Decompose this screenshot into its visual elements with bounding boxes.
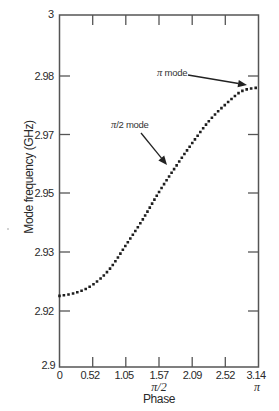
annotation-pi-half-mode: π/2 mode (111, 119, 167, 165)
x-tick-label: 2.09 (183, 369, 202, 381)
y-tick-label: 2.95 (34, 187, 53, 199)
mode-frequency-curve (60, 88, 259, 296)
annotation-label: π mode (157, 67, 187, 78)
annotation-label: π/2 mode (111, 119, 149, 130)
x-tick-label: 0 (57, 369, 63, 381)
y-tick-labels: 3 2.98 2.97 2.95 2.93 2.92 2.9 (34, 8, 55, 371)
y-axis-ticks (60, 76, 259, 311)
mode-frequency-chart: 3 2.98 2.97 2.95 2.93 2.92 2.9 0 0.52 1.… (0, 0, 279, 411)
stray-dot (7, 228, 9, 230)
annotation-pi-mode: π mode (157, 67, 247, 87)
annotation-suffix: /2 mode (116, 119, 148, 130)
x-tick-labels: 0 0.52 1.05 1.57 2.09 2.52 3.14 π/2 π (57, 369, 266, 394)
y-tick-label: 2.92 (34, 305, 53, 317)
arrow-line (188, 75, 239, 84)
y-tick-label: 2.9 (42, 359, 56, 371)
arrow-head-icon (158, 156, 167, 165)
arrow-line (141, 133, 162, 158)
annotation-suffix: mode (162, 67, 187, 78)
x-tick-label: 1.05 (114, 369, 133, 381)
x-tick-sublabel-pi: π (254, 380, 261, 394)
y-axis-title: Mode frequency (GHz) (22, 120, 36, 234)
y-tick-label: 2.93 (34, 246, 53, 258)
x-tick-label: 2.52 (216, 369, 235, 381)
x-tick-label: 0.52 (80, 369, 99, 381)
y-tick-label: 3 (48, 8, 54, 20)
arrow-head-icon (238, 80, 248, 87)
x-axis-title: Phase (143, 392, 176, 406)
y-tick-label: 2.98 (34, 70, 53, 82)
y-tick-label: 2.97 (34, 129, 53, 141)
